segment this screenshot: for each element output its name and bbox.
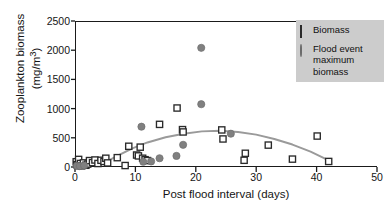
x-axis-tick-labels: 01020304050	[0, 171, 390, 187]
data-point-square	[156, 121, 162, 127]
data-point-square	[220, 136, 226, 142]
data-point-circle	[173, 152, 180, 159]
data-point-circle	[198, 101, 205, 108]
legend-item-biomass: Biomass	[300, 24, 381, 38]
data-point-square	[122, 162, 128, 168]
legend-item-flood-event-maximum-biomass: Flood event maximum biomass	[300, 43, 381, 78]
data-point-square	[289, 156, 295, 162]
legend-label-flood-event-maximum-biomass: Flood event maximum biomass	[313, 43, 381, 78]
legend-label-biomass: Biomass	[313, 24, 381, 36]
x-tick-label-40: 40	[302, 171, 332, 183]
data-point-circle	[148, 158, 155, 165]
data-point-square	[105, 160, 111, 166]
data-point-circle	[138, 123, 145, 130]
data-point-circle	[156, 155, 163, 162]
x-tick-label-20: 20	[181, 171, 211, 183]
data-point-square	[137, 144, 143, 150]
legend-key-filled-circle	[300, 43, 313, 57]
data-point-circle	[198, 44, 205, 51]
x-tick-label-0: 0	[60, 171, 90, 183]
data-point-square	[314, 133, 320, 139]
data-point-circle	[140, 158, 147, 165]
chart-legend: Biomass Flood event maximum biomass	[296, 20, 384, 82]
data-point-square	[126, 143, 132, 149]
data-point-square	[265, 142, 271, 148]
chart-figure: Zooplankton biomass (mg/m3) 050010001500…	[0, 0, 390, 215]
legend-key-open-square	[300, 24, 313, 38]
x-axis-label: Post flood interval (days)	[75, 188, 377, 200]
x-tick-label-50: 50	[362, 171, 390, 183]
data-point-square	[114, 155, 120, 161]
data-point-circle	[80, 162, 87, 169]
data-point-circle	[227, 130, 234, 137]
data-point-square	[180, 129, 186, 135]
data-point-circle	[180, 141, 187, 148]
data-point-square	[241, 157, 247, 163]
x-tick-label-30: 30	[241, 171, 271, 183]
data-point-square	[326, 158, 332, 164]
data-point-square	[242, 150, 248, 156]
data-point-square	[219, 127, 225, 133]
series-flood-event-maximum-biomass	[73, 44, 234, 169]
data-point-square	[174, 105, 180, 111]
x-tick-label-10: 10	[120, 171, 150, 183]
